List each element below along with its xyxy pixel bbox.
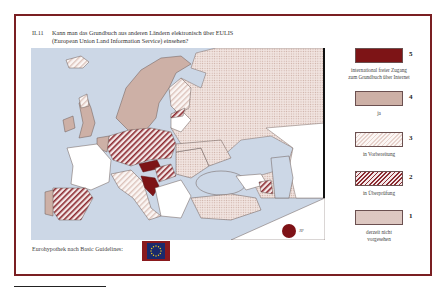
- legend-value: 3: [409, 134, 413, 142]
- footnote-rule: [14, 286, 106, 287]
- title-line-2: (European Union Land Information Service…: [52, 37, 188, 45]
- legend-label: ja: [339, 110, 419, 117]
- jp-marker: [282, 224, 296, 238]
- legend-value: 5: [409, 50, 413, 58]
- eu-stars-icon: [147, 243, 165, 259]
- title-line-1: Kann man das Grundbuch aus anderen Lände…: [52, 29, 233, 37]
- legend-label: in Vorbereitung: [339, 151, 419, 158]
- legend-label-line-1: in Vorbereitung: [339, 151, 419, 158]
- legend-label: in Überprüfung: [339, 190, 419, 197]
- legend-swatch-1: [355, 210, 403, 225]
- region-portugal: [45, 190, 53, 216]
- eu-flag-icon: [142, 241, 170, 261]
- eurohypothek-label: Eurohypothek nach Basic Guidelines:: [32, 246, 123, 252]
- region-azerbaijan: [259, 180, 273, 194]
- legend-label-line-1: international freier Zugang: [339, 67, 419, 74]
- legend-value: 1: [409, 212, 413, 220]
- figure-number: II.11: [32, 29, 44, 37]
- legend-swatch-5: [355, 48, 403, 63]
- legend-label-line-1: in Überprüfung: [339, 190, 419, 197]
- legend-swatch-2: [355, 171, 403, 186]
- eu-flag-field: [147, 243, 165, 259]
- legend-label-line-1: ja: [339, 110, 419, 117]
- legend-swatch-4: [355, 91, 403, 106]
- legend-swatch-3: [355, 132, 403, 147]
- legend-value: 2: [409, 173, 413, 181]
- legend-label-line-2: zum Grundbuch über Internet: [339, 74, 419, 81]
- legend-label: derzeit nicht vorgesehen: [339, 229, 419, 243]
- jp-label: JP: [299, 228, 304, 233]
- caspian-sea: [271, 156, 293, 198]
- legend-label-line-1: derzeit nicht: [339, 229, 419, 236]
- black-sea: [196, 171, 246, 195]
- europe-map: [31, 48, 325, 240]
- legend-value: 4: [409, 93, 413, 101]
- map-edge: [323, 48, 325, 198]
- legend-label-line-2: vorgesehen: [339, 236, 419, 243]
- legend-label: international freier Zugang zum Grundbuc…: [339, 67, 419, 81]
